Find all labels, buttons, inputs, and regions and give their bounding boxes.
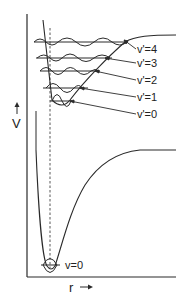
label-pointer-lines — [70, 40, 136, 114]
ground-state-potential-curve — [36, 150, 176, 269]
excited-level-v4 — [34, 38, 128, 46]
y-axis-label: V — [12, 116, 21, 131]
y-axis-arrow-icon — [15, 102, 20, 114]
label-v0-excited: v'=0 — [137, 108, 157, 120]
x-axis-label: r — [69, 280, 74, 295]
label-v1: v'=1 — [137, 91, 157, 103]
label-v3: v'=3 — [137, 57, 157, 69]
label-v0-ground: v=0 — [65, 259, 83, 271]
label-v2: v'=2 — [137, 74, 157, 86]
x-axis-arrow-icon — [80, 285, 93, 290]
potential-energy-diagram: v'=4 v'=3 v'=2 v'=1 v'=0 v=0 V r — [0, 0, 186, 306]
label-v4: v'=4 — [137, 43, 157, 55]
